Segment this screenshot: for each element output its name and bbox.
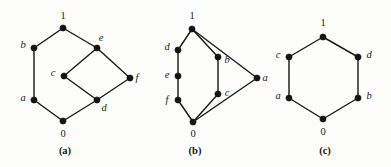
diagram-node-b[interactable] <box>355 95 361 101</box>
node-label-1: 1 <box>320 18 325 29</box>
diagram-edge <box>34 28 63 48</box>
diagram-node-0[interactable] <box>320 116 326 122</box>
node-label-d: d <box>101 103 106 114</box>
diagram-edge <box>64 48 97 76</box>
diagram-node-d[interactable] <box>355 54 361 60</box>
diagram-node-f[interactable] <box>175 97 181 103</box>
node-label-a: a <box>275 91 280 102</box>
node-label-1: 1 <box>60 11 65 22</box>
caption-diagram-c: (c) <box>319 146 331 157</box>
diagram-edge <box>323 98 358 119</box>
diagram-edge <box>323 37 358 57</box>
node-label-1: 1 <box>189 11 194 22</box>
diagram-edge <box>289 98 323 119</box>
diagram-edge <box>97 78 130 100</box>
diagram-node-d[interactable] <box>175 47 181 53</box>
diagram-edge <box>178 100 193 122</box>
diagram-node-b[interactable] <box>31 45 37 51</box>
node-label-0: 0 <box>320 127 325 138</box>
hasse-diagram-figure: 1becfad0(a)1dbeacf0(b)1cdab0(c) <box>0 0 391 167</box>
diagram-node-e[interactable] <box>175 73 181 79</box>
node-label-c: c <box>225 88 230 99</box>
caption-diagram-a: (a) <box>59 146 71 157</box>
node-label-a: a <box>262 73 267 84</box>
diagram-node-c[interactable] <box>215 91 221 97</box>
diagram-edge <box>178 29 192 50</box>
diagram-node-b[interactable] <box>215 54 221 60</box>
node-label-c: c <box>276 50 281 61</box>
diagram-node-a[interactable] <box>286 95 292 101</box>
diagram-edge <box>63 28 97 48</box>
node-label-c: c <box>51 68 56 79</box>
node-label-f: f <box>136 73 139 84</box>
node-label-b: b <box>224 55 229 66</box>
node-label-d: d <box>366 50 371 61</box>
diagram-node-f[interactable] <box>127 75 133 81</box>
diagram-c <box>286 34 361 122</box>
node-label-0: 0 <box>190 129 195 140</box>
node-label-f: f <box>166 95 169 106</box>
node-label-d: d <box>164 42 169 53</box>
caption-diagram-b: (b) <box>189 146 202 157</box>
node-label-b: b <box>366 91 371 102</box>
diagram-edge <box>192 29 218 57</box>
diagram-node-c[interactable] <box>61 73 67 79</box>
diagram-a <box>31 25 133 124</box>
diagram-edge <box>97 48 130 78</box>
node-label-e: e <box>99 33 104 44</box>
diagram-node-0[interactable] <box>190 119 196 125</box>
node-label-e: e <box>165 70 170 81</box>
diagram-node-e[interactable] <box>94 45 100 51</box>
diagram-b <box>175 26 260 125</box>
diagram-node-0[interactable] <box>60 118 66 124</box>
node-label-b: b <box>20 40 25 51</box>
diagram-edge <box>289 37 323 57</box>
diagram-canvas <box>0 0 391 167</box>
diagram-node-c[interactable] <box>286 54 292 60</box>
diagram-node-1[interactable] <box>189 26 195 32</box>
diagram-edge <box>63 100 97 121</box>
diagram-edge <box>34 100 63 121</box>
node-label-0: 0 <box>60 129 65 140</box>
node-label-a: a <box>20 93 25 104</box>
diagram-edge <box>64 76 97 100</box>
diagram-edge <box>193 78 257 122</box>
diagram-node-a[interactable] <box>254 75 260 81</box>
diagram-node-1[interactable] <box>60 25 66 31</box>
diagram-node-a[interactable] <box>31 97 37 103</box>
diagram-node-1[interactable] <box>320 34 326 40</box>
diagram-node-d[interactable] <box>94 97 100 103</box>
